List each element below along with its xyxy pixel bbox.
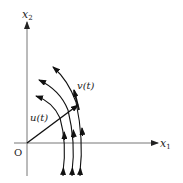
- arrow-up-icon: [72, 168, 73, 176]
- x2-axis-label: x2: [22, 8, 33, 22]
- arrow-up-icon: [82, 128, 83, 136]
- arrow-up-icon: [63, 168, 64, 176]
- trajectory-middle: [39, 80, 73, 172]
- origin-label: O: [14, 147, 22, 158]
- diagram-canvas: x2 x1 O u(t) v(t): [0, 0, 183, 183]
- trajectory-inner: [36, 96, 64, 172]
- v-vector-label: v(t): [77, 80, 95, 91]
- x1-axis-label: x1: [160, 137, 171, 151]
- axes: [14, 22, 158, 176]
- arrow-up-icon: [80, 168, 81, 176]
- u-vector-label: u(t): [30, 112, 48, 123]
